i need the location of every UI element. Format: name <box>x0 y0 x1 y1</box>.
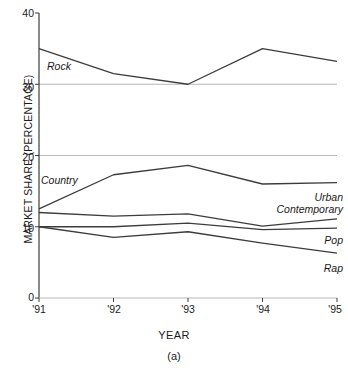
line-chart-plot <box>0 0 348 375</box>
series-label-rock: Rock <box>47 60 71 72</box>
x-tick-91: '91 <box>24 303 54 315</box>
x-tick-94: '94 <box>248 303 278 315</box>
y-tick-0: 0 <box>8 291 34 303</box>
series-label-contemporary: Contemporary <box>223 203 343 215</box>
series-label-pop: Pop <box>243 234 343 246</box>
series-line-rock <box>39 49 337 85</box>
chart-figure: 40 30 20 10 0 '91 '92 '93 '94 '95 Rock C… <box>0 0 348 375</box>
x-tick-95: '95 <box>320 303 348 315</box>
axis-lines <box>35 13 337 302</box>
series-label-country: Country <box>41 174 78 186</box>
series-label-rap: Rap <box>243 262 343 274</box>
x-axis-title: YEAR <box>0 329 348 341</box>
series-lines <box>39 49 337 253</box>
y-tick-40: 40 <box>8 7 34 19</box>
y-axis-title: MARKET SHARE (PERCENTAGE) <box>22 54 34 264</box>
series-label-urban: Urban <box>223 191 343 203</box>
x-tick-92: '92 <box>99 303 129 315</box>
x-tick-93: '93 <box>173 303 203 315</box>
series-line-pop <box>39 223 337 229</box>
figure-caption: (a) <box>0 350 348 362</box>
gridlines <box>39 84 337 155</box>
